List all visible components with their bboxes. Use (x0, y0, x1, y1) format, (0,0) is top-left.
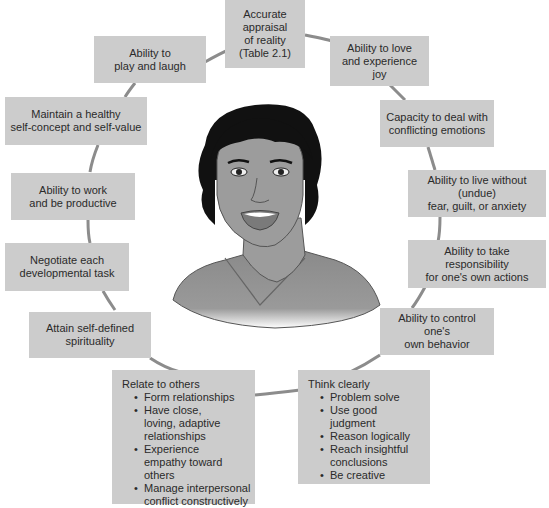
list-item: Use good judgment (322, 404, 420, 430)
node-conflicting-emotions: Capacity to deal with conflicting emotio… (380, 100, 494, 147)
list-item: Manage interpersonal conflict constructi… (136, 482, 252, 508)
node-text: Ability to love (334, 42, 425, 55)
node-text: Ability to live without (undue) (412, 174, 542, 200)
node-text: for one's own actions (412, 271, 542, 284)
node-text: Attain self-defined (46, 322, 134, 335)
node-accurate-appraisal: Accurate appraisal of reality (Table 2.1… (225, 0, 305, 68)
node-text: Negotiate each (20, 254, 115, 267)
bullet-list: Form relationships Have close, loving, a… (122, 391, 245, 508)
node-text: appraisal (239, 21, 291, 34)
node-text: own behavior (384, 338, 490, 351)
node-text: Capacity to deal with (386, 111, 488, 124)
node-self-concept: Maintain a healthy self-concept and self… (5, 97, 147, 145)
node-control-behavior: Ability to control one's own behavior (380, 308, 494, 355)
node-live-without-fear: Ability to live without (undue) fear, gu… (408, 170, 546, 217)
node-text: Ability to control one's (384, 312, 490, 338)
node-developmental-task: Negotiate each developmental task (5, 243, 129, 291)
node-text: (Table 2.1) (239, 47, 291, 60)
node-title: Think clearly (308, 378, 420, 391)
node-text: developmental task (20, 267, 115, 280)
node-text: and experience joy (334, 55, 425, 81)
list-item: Reach insightful conclusions (322, 443, 410, 469)
node-work-productive: Ability to work and be productive (11, 173, 135, 220)
node-text: Maintain a healthy (11, 108, 142, 121)
node-text: fear, guilt, or anxiety (412, 200, 542, 213)
node-text: Accurate (239, 8, 291, 21)
list-item: Problem solve (322, 391, 420, 404)
list-item: Form relationships (136, 391, 245, 404)
node-think-clearly: Think clearly Problem solve Use good jud… (298, 370, 430, 484)
node-text: spirituality (46, 335, 134, 348)
list-item: Have close, loving, adaptive relationshi… (136, 404, 226, 443)
node-text: of reality (239, 34, 291, 47)
node-text: Ability to (114, 47, 186, 60)
node-text: self-concept and self-value (11, 121, 142, 134)
node-spirituality: Attain self-defined spirituality (29, 312, 151, 358)
node-play-laugh: Ability to play and laugh (94, 36, 206, 83)
person-illustration (165, 100, 395, 335)
list-item: Be creative (322, 469, 420, 482)
node-title: Relate to others (122, 378, 245, 391)
node-text: conflicting emotions (386, 124, 488, 137)
node-text: play and laugh (114, 60, 186, 73)
list-item: Reason logically (322, 430, 420, 443)
node-text: Ability to work (29, 184, 116, 197)
node-relate-to-others: Relate to others Form relationships Have… (112, 370, 255, 504)
bullet-list: Problem solve Use good judgment Reason l… (308, 391, 420, 482)
node-text: Ability to take responsibility (412, 245, 542, 271)
node-text: and be productive (29, 197, 116, 210)
node-take-responsibility: Ability to take responsibility for one's… (408, 240, 546, 288)
list-item: Experience empathy toward others (136, 443, 242, 482)
node-love-joy: Ability to love and experience joy (330, 36, 429, 86)
